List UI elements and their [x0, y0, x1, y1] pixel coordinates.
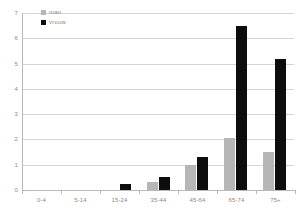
x-axis-tick-mark: [217, 190, 218, 194]
bar-group: [22, 13, 61, 190]
bar-group: [177, 13, 216, 190]
bar-group: [61, 13, 100, 190]
y-axis-tick-label: 7: [4, 10, 18, 16]
bar-vrouw: [236, 26, 247, 190]
bar-man: [185, 165, 196, 190]
bar-man: [224, 138, 235, 190]
bar-vrouw: [159, 177, 170, 190]
y-axis-line: [22, 13, 23, 191]
y-axis-tick-label: 6: [4, 35, 18, 41]
y-axis-tick-label: 2: [4, 136, 18, 142]
bar-man: [147, 182, 158, 190]
x-axis-tick-mark: [22, 190, 23, 194]
bar-group: [100, 13, 139, 190]
legend-swatch-vrouw: [41, 20, 46, 25]
bar-vrouw: [275, 59, 286, 190]
y-axis-tick-label: 4: [4, 86, 18, 92]
x-axis-tick-mark: [295, 190, 296, 194]
bar-man: [263, 152, 274, 190]
x-axis-tick-mark: [100, 190, 101, 194]
legend-label: man: [49, 9, 61, 16]
x-axis-tick-mark: [139, 190, 140, 194]
x-axis-tick-mark: [61, 190, 62, 194]
x-axis-tick-mark: [178, 190, 179, 194]
x-axis-tick-label: 15-24: [100, 197, 139, 204]
x-axis-tick-label: 5-14: [61, 197, 100, 204]
y-axis-tick-label: 5: [4, 61, 18, 67]
x-axis-tick-marks: [22, 190, 295, 191]
x-axis-tick-label: 35-44: [139, 197, 178, 204]
x-axis-tick-label: 45-64: [178, 197, 217, 204]
y-axis-tick-label: 3: [4, 111, 18, 117]
bar-groups: [22, 13, 294, 190]
y-axis-tick-label: 0: [4, 187, 18, 193]
bar-vrouw: [197, 157, 208, 190]
bar-group: [255, 13, 294, 190]
x-axis-labels: 0-45-1415-2435-4445-6465-7475+: [22, 197, 295, 204]
legend-item: vrouw: [41, 18, 66, 26]
legend-label: vrouw: [49, 19, 66, 26]
legend-item: man: [41, 8, 66, 16]
bar-group: [216, 13, 255, 190]
legend-swatch-man: [41, 10, 46, 15]
plot-area: [22, 13, 294, 190]
legend: manvrouw: [41, 8, 66, 26]
x-axis-tick-label: 0-4: [22, 197, 61, 204]
bar-group: [139, 13, 178, 190]
x-axis-tick-label: 65-74: [217, 197, 256, 204]
y-axis-tick-label: 1: [4, 162, 18, 168]
bar-chart: 01234567 0-45-1415-2435-4445-6465-7475+ …: [0, 0, 300, 215]
x-axis-tick-label: 75+: [256, 197, 295, 204]
x-axis-tick-mark: [256, 190, 257, 194]
